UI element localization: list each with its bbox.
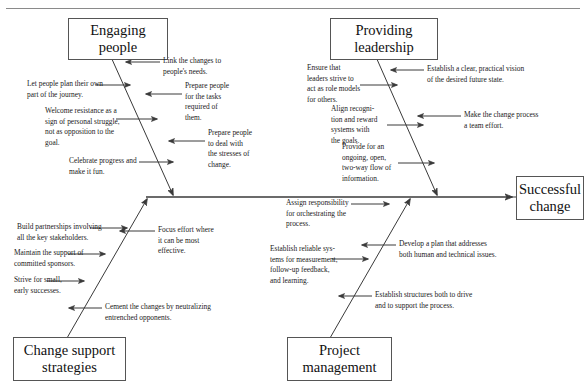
cause-note-pm-3-line4: and learning. xyxy=(270,276,342,287)
cause-note-pm-1-line1: Assign responsibility xyxy=(286,198,356,209)
cause-note-ep-2-line2: part of the journey. xyxy=(27,90,119,101)
cause-note-ep-5-line2: to deal with xyxy=(208,139,270,150)
cause-note-ep-4-line1: Welcome resistance as a xyxy=(45,106,137,117)
cause-note-ep-4-line2: sign of personal struggle, xyxy=(45,117,137,128)
category-label-providing-leadership-line1: Providing xyxy=(354,22,414,39)
cause-note-ep-2: Let people plan their own part of the jo… xyxy=(27,79,119,100)
cause-note-cs-5-line2: entrenched opponents. xyxy=(105,313,227,324)
cause-note-pm-3-line3: follow-up feedback, xyxy=(270,265,342,276)
cause-note-cs-3-line2: committed sponsors. xyxy=(14,259,94,270)
cause-note-ep-3-line2: for the tasks xyxy=(185,92,245,103)
cause-note-pm-1: Assign responsibility for orchestrating … xyxy=(286,198,356,230)
cause-note-pl-1-line2: of the desired future state. xyxy=(427,75,557,86)
category-box-change-support-strategies[interactable]: Change support strategies xyxy=(13,337,126,381)
category-box-providing-leadership[interactable]: Providing leadership xyxy=(330,18,438,60)
cause-note-cs-5: Cement the changes by neutralizing entre… xyxy=(105,302,227,323)
cause-note-cs-2: Focus effort where it can be most effect… xyxy=(158,225,230,257)
cause-note-pl-2: Ensure that leaders strive to act as rol… xyxy=(307,63,373,105)
cause-note-ep-4-line4: goal. xyxy=(45,138,137,149)
cause-note-pl-5-line4: information. xyxy=(342,174,400,185)
cause-note-ep-1-line2: people's needs. xyxy=(163,67,259,78)
cause-note-ep-3-line4: them. xyxy=(185,113,245,124)
cause-note-pm-4: Establish structures both to drive and t… xyxy=(375,290,497,311)
cause-note-pl-4-line1: Align recogni- xyxy=(331,104,389,115)
cause-note-pm-2-line2: both human and technical issues. xyxy=(399,250,517,261)
cause-note-cs-3-line1: Maintain the support of xyxy=(14,248,94,259)
cause-note-pl-4-line3: systems with xyxy=(331,125,389,136)
category-label-change-support-strategies-line1: Change support xyxy=(24,342,115,359)
cause-note-pm-2: Develop a plan that addresses both human… xyxy=(399,239,517,260)
cause-note-pl-5-line2: ongoing, open, xyxy=(342,153,400,164)
cause-note-ep-1-line1: Link the changes to xyxy=(163,56,259,67)
category-label-project-management-line2: management xyxy=(302,359,376,376)
category-label-engaging-people-line1: Engaging xyxy=(90,22,146,39)
cause-note-ep-4-line3: not as opposition to the xyxy=(45,127,137,138)
cause-note-cs-2-line2: it can be most xyxy=(158,236,230,247)
cause-note-cs-4: Strive for small, early successes. xyxy=(14,275,80,296)
cause-note-pl-1-line1: Establish a clear, practical vision xyxy=(427,64,557,75)
cause-note-pl-2-line2: leaders strive to xyxy=(307,74,373,85)
cause-note-cs-5-line1: Cement the changes by neutralizing xyxy=(105,302,227,313)
category-label-project-management-line1: Project xyxy=(302,342,376,359)
cause-note-pl-5-line1: Provide for an xyxy=(342,142,400,153)
cause-note-ep-5-line1: Prepare people xyxy=(208,128,270,139)
cause-note-ep-2-line1: Let people plan their own xyxy=(27,79,119,90)
category-label-providing-leadership-line2: leadership xyxy=(354,39,414,56)
cause-note-cs-4-line2: early successes. xyxy=(14,286,80,297)
cause-note-pl-4: Align recogni- tion and reward systems w… xyxy=(331,104,389,146)
cause-note-pl-2-line1: Ensure that xyxy=(307,63,373,74)
cause-note-pl-3-line1: Make the change process xyxy=(464,110,566,121)
cause-note-pl-3-line2: a team effort. xyxy=(464,121,566,132)
effect-label-line1: Successful xyxy=(519,181,581,198)
cause-note-ep-5: Prepare people to deal with the stresses… xyxy=(208,128,270,170)
cause-note-ep-5-line3: the stresses of xyxy=(208,149,270,160)
cause-note-pm-2-line1: Develop a plan that addresses xyxy=(399,239,517,250)
cause-note-ep-3-line3: required of xyxy=(185,102,245,113)
cause-note-ep-4: Welcome resistance as a sign of personal… xyxy=(45,106,137,148)
cause-note-cs-4-line1: Strive for small, xyxy=(14,275,80,286)
cause-note-ep-6: Celebrate progress and make it fun. xyxy=(69,156,157,177)
cause-note-pm-4-line2: and to support the process. xyxy=(375,301,497,312)
cause-note-cs-1-line1: Build partnerships involving xyxy=(17,222,103,233)
cause-note-pm-3-line2: tems for measurement, xyxy=(270,255,342,266)
cause-note-ep-3-line1: Prepare people xyxy=(185,81,245,92)
effect-box-successful-change[interactable]: Successful change xyxy=(516,176,584,220)
cause-note-pl-5-line3: two-way flow of xyxy=(342,163,400,174)
cause-note-ep-3: Prepare people for the tasks required of… xyxy=(185,81,245,123)
effect-label-line2: change xyxy=(519,198,581,215)
cause-note-ep-5-line4: change. xyxy=(208,160,270,171)
cause-note-pm-3-line1: Establish reliable sys- xyxy=(270,244,342,255)
cause-note-pl-4-line2: tion and reward xyxy=(331,115,389,126)
cause-note-ep-6-line2: make it fun. xyxy=(69,167,157,178)
category-label-engaging-people-line2: people xyxy=(90,39,146,56)
fishbone-diagram: Engaging people Providing leadership Cha… xyxy=(0,0,586,389)
cause-note-pl-5: Provide for an ongoing, open, two-way fl… xyxy=(342,142,400,184)
cause-note-ep-6-line1: Celebrate progress and xyxy=(69,156,157,167)
cause-note-pm-3: Establish reliable sys- tems for measure… xyxy=(270,244,342,286)
cause-note-pm-4-line1: Establish structures both to drive xyxy=(375,290,497,301)
category-box-engaging-people[interactable]: Engaging people xyxy=(68,18,168,60)
cause-note-pl-3: Make the change process a team effort. xyxy=(464,110,566,131)
cause-note-cs-2-line3: effective. xyxy=(158,246,230,257)
cause-note-cs-2-line1: Focus effort where xyxy=(158,225,230,236)
cause-note-cs-1: Build partnerships involving all the key… xyxy=(17,222,103,243)
cause-note-pl-1: Establish a clear, practical vision of t… xyxy=(427,64,557,85)
cause-note-ep-1: Link the changes to people's needs. xyxy=(163,56,259,77)
cause-note-pm-1-line2: for orchestrating the xyxy=(286,209,356,220)
cause-note-pl-2-line3: act as role models xyxy=(307,84,373,95)
category-box-project-management[interactable]: Project management xyxy=(287,337,392,381)
cause-note-pm-1-line3: process. xyxy=(286,219,356,230)
category-label-change-support-strategies-line2: strategies xyxy=(24,359,115,376)
cause-note-cs-3: Maintain the support of committed sponso… xyxy=(14,248,94,269)
cause-note-cs-1-line2: all the key stakeholders. xyxy=(17,233,103,244)
